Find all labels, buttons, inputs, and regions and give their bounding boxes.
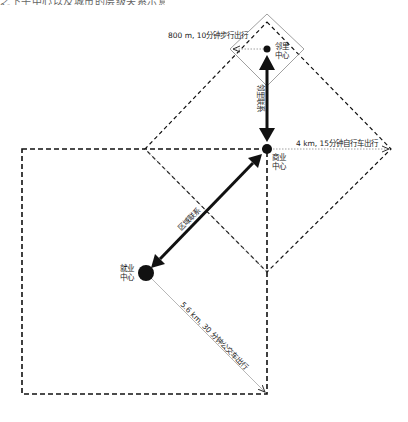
neighborhood-center-label-2: 中心 bbox=[275, 50, 290, 60]
business-center-label-2: 中心 bbox=[272, 161, 287, 171]
bike-distance-label: 4 km, 15分钟自行车出行 bbox=[296, 138, 379, 148]
urban-hierarchy-diagram: 邻里 中心 商业 中心 就业 中心 800 m, 10分钟步行出行 4 km, … bbox=[0, 0, 408, 422]
business-center-node bbox=[262, 144, 272, 154]
employment-center-label-1: 就业 bbox=[120, 263, 135, 273]
neighborhood-center-label-1: 邻里 bbox=[275, 41, 290, 51]
employment-center-label-2: 中心 bbox=[120, 272, 135, 282]
neighborhood-link-label: 邻里联系 bbox=[256, 84, 266, 113]
walk-distance-label: 800 m, 10分钟步行出行 bbox=[168, 30, 249, 40]
transit-distance-label: 5.6 km, 30 分钟公交车出行 bbox=[179, 299, 252, 372]
employment-center-node bbox=[138, 265, 154, 281]
business-center-label-1: 商业 bbox=[272, 152, 287, 162]
neighborhood-center-node bbox=[264, 46, 271, 53]
